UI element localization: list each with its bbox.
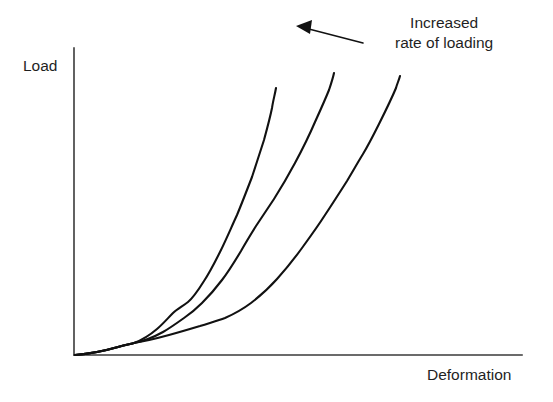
arrow-up-left-icon bbox=[296, 20, 312, 34]
annotation-text: Increased rate of loading bbox=[395, 13, 493, 53]
annotation-arrow-shaft bbox=[305, 28, 363, 43]
chart-figure: Load Deformation Increased rate of loadi… bbox=[0, 0, 553, 402]
annotation-line-2: rate of loading bbox=[395, 33, 493, 53]
curve-intermediate-rate bbox=[75, 73, 334, 355]
x-axis-label: Deformation bbox=[427, 365, 511, 385]
y-axis-label: Load bbox=[23, 56, 57, 76]
curve-highest-rate bbox=[75, 88, 276, 355]
chart-canvas bbox=[0, 0, 553, 402]
annotation-line-1: Increased bbox=[395, 13, 493, 33]
